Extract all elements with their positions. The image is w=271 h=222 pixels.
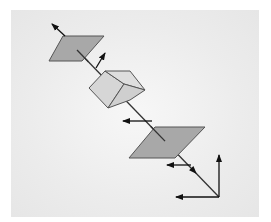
- main-axis-line: [77, 50, 219, 197]
- top-plane-normal-icon: [52, 24, 65, 36]
- bottom-plane: [129, 127, 205, 158]
- top-plane: [49, 36, 104, 61]
- cube: [89, 71, 145, 108]
- small-up-arrow-icon: [96, 53, 105, 68]
- diagram-canvas: [0, 0, 271, 222]
